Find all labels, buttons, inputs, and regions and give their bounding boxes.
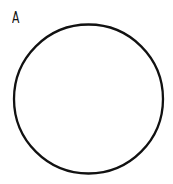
circle-shape bbox=[0, 0, 173, 184]
circle-outline bbox=[14, 25, 163, 174]
diagram-canvas: A bbox=[0, 0, 173, 184]
